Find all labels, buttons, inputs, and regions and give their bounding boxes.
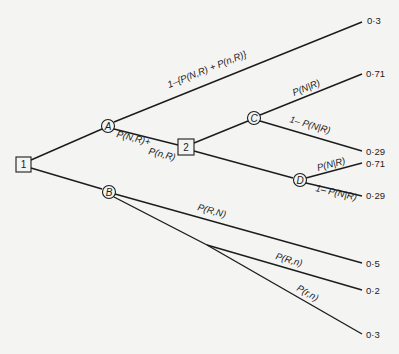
edge-1-to-A — [31, 129, 102, 160]
node-D-label: D — [296, 175, 303, 186]
outcome-b-mid: 0·2 — [366, 285, 380, 296]
decision-tree-diagram: 1 2 A B C D 1–{P(N,R) + P(n,R)} P(N,R)+ … — [0, 0, 399, 354]
node-A-label: A — [104, 121, 112, 132]
node-B-label: B — [106, 187, 113, 198]
label-d-top: P(N|R) — [316, 155, 347, 173]
outcome-c-top: 0·71 — [366, 68, 385, 79]
outcome-d-bottom: 0·29 — [366, 190, 385, 201]
node-2-label: 2 — [183, 142, 189, 153]
label-a-to-2-line2: P(n,R) — [148, 145, 177, 162]
node-1-label: 1 — [21, 159, 27, 170]
outcome-b-bottom: 0·3 — [366, 329, 380, 340]
node-C-label: C — [250, 113, 258, 124]
label-c-bottom: 1– P(N|R) — [288, 113, 331, 135]
edge-2-to-D — [194, 151, 293, 178]
chance-node-C: C — [248, 112, 261, 125]
label-c-top: P(N|R) — [291, 77, 322, 98]
label-d-bottom: 1– P(N|R) — [315, 182, 358, 202]
edge-1-to-B — [31, 168, 102, 189]
decision-node-2: 2 — [178, 139, 194, 155]
outcome-c-bottom: 0·29 — [366, 146, 385, 157]
outcome-a-top: 0·3 — [367, 15, 381, 26]
edge-2-to-C — [194, 121, 248, 143]
edge-B-to-top — [115, 194, 362, 263]
outcome-d-top: 0·71 — [366, 158, 385, 169]
chance-node-B: B — [103, 186, 116, 199]
decision-node-1: 1 — [16, 157, 31, 172]
label-a-top: 1–{P(N,R) + P(n,R)} — [166, 48, 249, 90]
tree-canvas: 1 2 A B C D 1–{P(N,R) + P(n,R)} P(N,R)+ … — [0, 0, 399, 354]
label-b-top: P(R,N) — [196, 201, 227, 219]
edge-B-to-split — [114, 197, 207, 245]
outcome-b-top: 0·5 — [366, 258, 380, 269]
label-a-to-2-line1: P(N,R)+ — [116, 128, 153, 147]
chance-node-D: D — [294, 174, 307, 187]
chance-node-A: A — [102, 120, 115, 133]
label-b-bottom: P(r,n) — [295, 282, 321, 303]
edge-A-to-outcome-top — [114, 22, 362, 122]
